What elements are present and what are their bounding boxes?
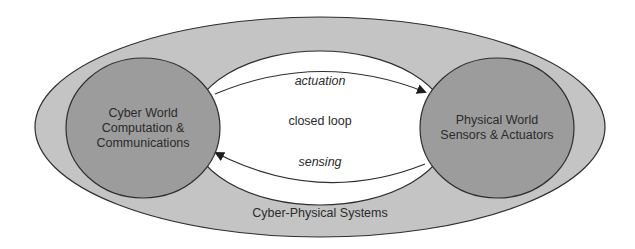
cyber-world-line3: Communications: [83, 136, 203, 151]
closed-loop-label: closed loop: [270, 114, 370, 129]
cyber-world-label: Cyber World Computation & Communications: [83, 106, 203, 151]
actuation-label: actuation: [280, 74, 360, 89]
cyber-world-title: Cyber World: [83, 106, 203, 121]
physical-world-line2: Sensors & Actuators: [432, 128, 562, 143]
physical-world-label: Physical World Sensors & Actuators: [432, 113, 562, 143]
physical-world-title: Physical World: [432, 113, 562, 128]
cyber-world-line2: Computation &: [83, 121, 203, 136]
cps-outer-label: Cyber-Physical Systems: [240, 206, 400, 221]
sensing-label: sensing: [280, 155, 360, 170]
